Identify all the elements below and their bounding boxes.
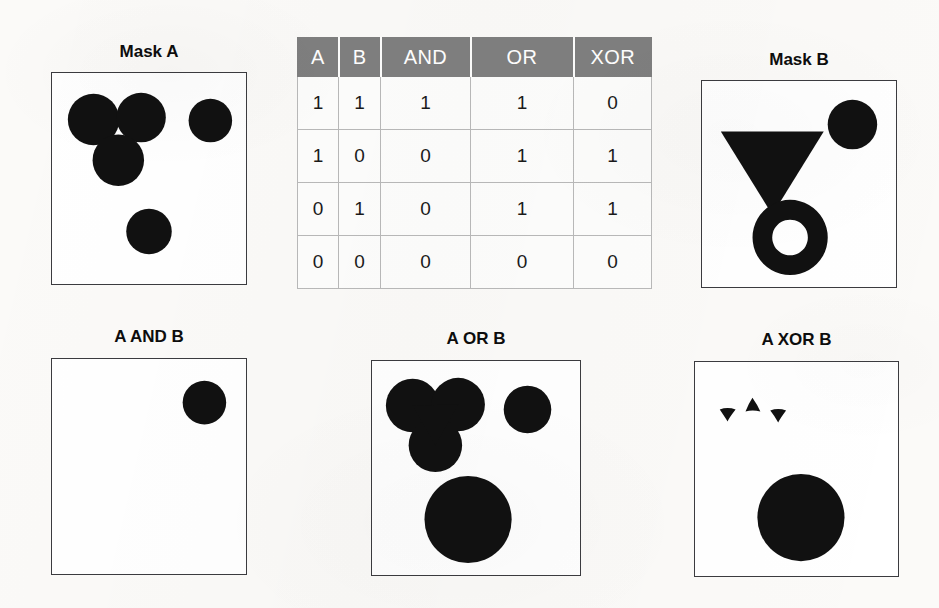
table-row: 1 1 1 1 0	[298, 77, 652, 130]
mask-a-circle-top-right	[116, 93, 165, 143]
panel-title-a-and-b: A AND B	[51, 327, 247, 347]
table-row: 1 0 0 1 1	[298, 130, 652, 183]
table-row: 0 1 0 1 1	[298, 183, 652, 236]
panel-box-a-and-b	[51, 358, 247, 575]
cell-and: 0	[381, 183, 471, 236]
cell-and: 0	[381, 236, 471, 289]
panel-a-xor-b: A XOR B	[694, 330, 899, 577]
truth-table: A B AND OR XOR 1 1 1 1 0 1 0 0 1 1 0 1 0…	[297, 37, 652, 289]
table-row: 0 0 0 0 0	[298, 236, 652, 289]
cell-a: 1	[298, 77, 339, 130]
panel-mask-b: Mask B	[701, 50, 897, 288]
truth-table-header-and: AND	[381, 38, 471, 77]
panel-box-a-xor-b	[694, 361, 899, 577]
mask-a-canvas	[52, 73, 246, 284]
cell-xor: 1	[574, 183, 652, 236]
panel-mask-a: Mask A	[51, 42, 247, 286]
panel-box-mask-b	[701, 80, 897, 288]
cell-a: 0	[298, 183, 339, 236]
cell-xor: 1	[574, 130, 652, 183]
cell-b: 1	[339, 77, 381, 130]
cell-b: 0	[339, 130, 381, 183]
a-xor-b-sliver-right	[770, 409, 786, 422]
cell-or: 1	[471, 77, 574, 130]
mask-b-annulus-bottom	[753, 200, 828, 275]
panel-title-mask-b: Mask B	[701, 50, 897, 70]
a-or-b-circle-bottom-large	[424, 476, 511, 563]
cell-xor: 0	[574, 77, 652, 130]
mask-b-triangle-down	[721, 132, 824, 215]
truth-table-header-row: A B AND OR XOR	[298, 38, 652, 77]
mask-a-circle-lower-middle	[93, 134, 144, 186]
panel-box-mask-a	[51, 72, 247, 285]
truth-table-header-b: B	[339, 38, 381, 77]
mask-a-circle-bottom	[126, 209, 172, 255]
cell-or: 1	[471, 130, 574, 183]
mask-a-circle-upper-right	[189, 99, 233, 143]
cell-xor: 0	[574, 236, 652, 289]
cell-or: 1	[471, 183, 574, 236]
cell-and: 0	[381, 130, 471, 183]
a-or-b-merged-circle-cluster	[386, 378, 485, 472]
a-and-b-circle-upper-right	[183, 381, 227, 425]
a-and-b-canvas	[52, 359, 246, 574]
a-xor-b-sliver-middle	[746, 398, 761, 412]
panel-title-mask-a: Mask A	[51, 42, 247, 62]
panel-title-a-or-b: A OR B	[371, 329, 581, 349]
cell-b: 1	[339, 183, 381, 236]
cell-b: 0	[339, 236, 381, 289]
panel-a-and-b: A AND B	[51, 327, 247, 575]
truth-table-header-or: OR	[471, 38, 574, 77]
a-xor-b-canvas	[695, 362, 898, 576]
mask-b-circle-upper-right	[828, 100, 877, 150]
a-or-b-canvas	[372, 361, 580, 575]
a-or-b-circle-upper-right	[504, 386, 552, 434]
a-xor-b-sliver-left	[720, 408, 736, 421]
cell-or: 0	[471, 236, 574, 289]
truth-table-header-xor: XOR	[574, 38, 652, 77]
a-xor-b-circle-bottom-large	[757, 474, 844, 561]
panel-title-a-xor-b: A XOR B	[694, 330, 899, 350]
cell-a: 0	[298, 236, 339, 289]
panel-a-or-b: A OR B	[371, 329, 581, 576]
mask-b-canvas	[702, 81, 896, 287]
cell-and: 1	[381, 77, 471, 130]
panel-box-a-or-b	[371, 360, 581, 576]
truth-table-header-a: A	[298, 38, 339, 77]
cell-a: 1	[298, 130, 339, 183]
